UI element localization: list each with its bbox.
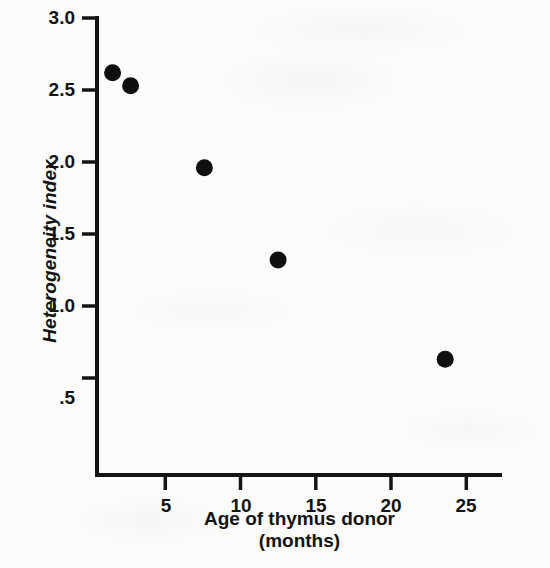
x-axis-ticks xyxy=(165,475,466,490)
x-axis-title-line1: Age of thymus donor xyxy=(204,508,395,529)
x-axis-title: Age of thymus donor (months) xyxy=(97,508,502,553)
data-point xyxy=(122,77,139,94)
x-axis-title-line2: (months) xyxy=(97,530,502,552)
y-axis-title: Heterogeneity index xyxy=(39,131,61,371)
data-point xyxy=(104,64,121,81)
y-tick-label-2.5: 2.5 xyxy=(20,79,75,101)
data-point xyxy=(437,351,454,368)
data-point xyxy=(270,251,287,268)
y-tick-label-3.0: 3.0 xyxy=(20,7,75,29)
y-axis-ticks xyxy=(82,18,97,378)
data-point-group xyxy=(104,64,454,368)
scatter-plot-figure: 3.0 2.5 2.0 1.5 1.0 .5 5 10 15 20 25 Het… xyxy=(0,0,550,568)
y-tick-label-0.5: .5 xyxy=(20,387,75,409)
data-point xyxy=(196,159,213,176)
plot-canvas xyxy=(0,0,550,568)
